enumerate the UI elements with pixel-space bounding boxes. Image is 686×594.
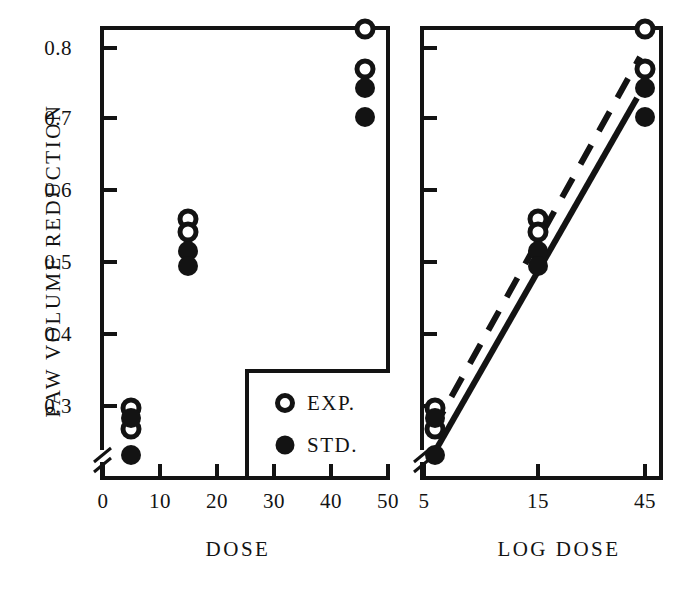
right-panel-exp-points — [427, 21, 653, 437]
x-tick-label-50: 50 — [368, 489, 408, 514]
log-x-tick-label-45: 45 — [625, 489, 665, 514]
y-tick-label-0.6: 0.6 — [24, 178, 92, 203]
legend-label-std: STD. — [307, 433, 358, 458]
x-tick-label-0: 0 — [83, 489, 123, 514]
y-tick-label-0.8: 0.8 — [24, 36, 92, 61]
legend-box — [245, 370, 390, 478]
left-panel-x-axis-title: DOSE — [178, 537, 298, 562]
right-panel-std-fit-line — [433, 98, 637, 455]
legend-label-exp: EXP. — [307, 391, 356, 416]
right-panel-y-ticks — [422, 48, 437, 406]
legend-marker-std — [276, 436, 295, 455]
left-panel-y-ticks — [102, 48, 117, 406]
y-tick-label-0.5: 0.5 — [24, 250, 92, 275]
log-x-tick-label-15: 15 — [518, 489, 558, 514]
figure-scatter-paw-volume-reduction: PAW VOLUME REDUCTION 0.8 0.7 0.6 0.5 0.4… — [0, 0, 686, 594]
y-tick-label-0.7: 0.7 — [24, 106, 92, 131]
x-tick-label-20: 20 — [197, 489, 237, 514]
x-tick-label-10: 10 — [140, 489, 180, 514]
right-panel-x-ticks — [424, 464, 645, 478]
log-x-tick-label-5: 5 — [404, 489, 444, 514]
y-tick-label-0.3: 0.3 — [24, 394, 92, 419]
legend-marker-exp — [278, 396, 293, 411]
x-tick-label-30: 30 — [254, 489, 294, 514]
right-panel-x-axis-title: LOG DOSE — [469, 537, 649, 562]
y-tick-label-0.4: 0.4 — [24, 322, 92, 347]
x-tick-label-40: 40 — [311, 489, 351, 514]
